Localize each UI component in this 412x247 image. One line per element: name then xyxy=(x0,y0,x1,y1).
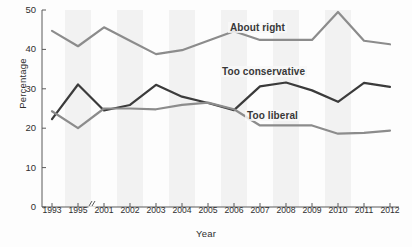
chart-title-cropped xyxy=(0,0,412,5)
x-tick-label: 2012 xyxy=(370,205,410,215)
y-tick-label: 10 xyxy=(10,163,36,173)
y-tick-label: 30 xyxy=(10,84,36,94)
series-label-too-conservative: Too conservative xyxy=(220,66,307,77)
x-axis-tick-labels: 1993199520012002200320042005200620072008… xyxy=(0,205,412,221)
chart-figure: Percentage Year 01020304050 199319952001… xyxy=(0,0,412,247)
x-axis-title: Year xyxy=(0,228,412,239)
y-tick-label: 20 xyxy=(10,123,36,133)
y-tick-label: 50 xyxy=(10,5,36,15)
series-label-too-liberal: Too liberal xyxy=(245,110,300,121)
y-tick-label: 40 xyxy=(10,44,36,54)
series-label-about-right: About right xyxy=(228,22,287,33)
